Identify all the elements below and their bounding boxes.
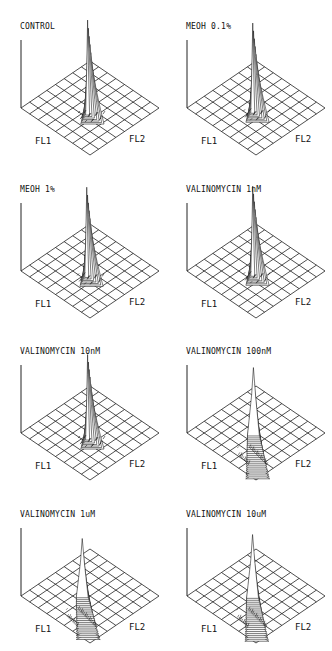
histogram-surface	[78, 20, 105, 124]
histogram-surface	[66, 539, 100, 640]
fl1-axis-label: FL1	[35, 461, 51, 471]
chart-panel: VALINOMYCIN 100nMFL1FL2	[166, 325, 332, 487]
fl1-axis-label: FL1	[35, 299, 51, 309]
fl2-axis-label: FL2	[129, 297, 145, 307]
fl1-axis-label: FL1	[201, 461, 217, 471]
fl2-axis-label: FL2	[295, 459, 311, 469]
fl2-axis-label: FL2	[129, 134, 145, 144]
histogram-surface	[77, 187, 104, 286]
fl2-axis-label: FL2	[295, 134, 311, 144]
fl2-axis-label: FL2	[129, 622, 145, 632]
fl1-axis-label: FL1	[201, 624, 217, 634]
chart-panel: CONTROLFL1FL2	[0, 0, 166, 162]
chart-panel: VALINOMYCIN 10nMFL1FL2	[0, 325, 166, 487]
fl1-axis-label: FL1	[35, 624, 51, 634]
histogram-surface	[243, 186, 270, 285]
fl1-axis-label: FL1	[35, 136, 51, 146]
histogram-surface	[243, 23, 270, 122]
chart-panel: MEOH 1%FL1FL2	[0, 163, 166, 325]
fl2-axis-label: FL2	[129, 459, 145, 469]
chart-panel: MEOH 0.1%FL1FL2	[166, 0, 332, 162]
histogram-surface	[236, 535, 268, 642]
chart-panel: VALINOMYCIN 1uMFL1FL2	[0, 488, 166, 650]
fl1-axis-label: FL1	[201, 136, 217, 146]
fl2-axis-label: FL2	[295, 297, 311, 307]
fl2-axis-label: FL2	[295, 622, 311, 632]
chart-panel: VALINOMYCIN 1nMFL1FL2	[166, 163, 332, 325]
fl1-axis-label: FL1	[201, 299, 217, 309]
chart-panel: VALINOMYCIN 10uMFL1FL2	[166, 488, 332, 650]
